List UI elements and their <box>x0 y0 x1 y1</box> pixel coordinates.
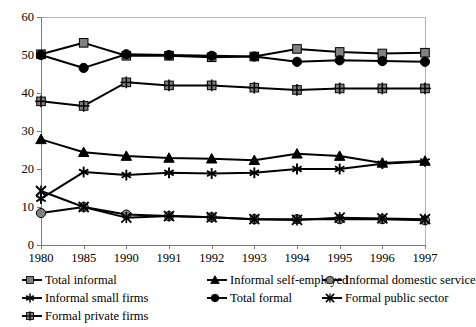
x-tick-mark <box>169 245 170 249</box>
x-tick-label: 1985 <box>61 252 107 265</box>
legend-item: Formal private firms <box>22 308 148 324</box>
x-tick-label: 1991 <box>146 252 192 265</box>
legend-marker-circle-filled-icon <box>207 291 227 305</box>
series-informal-domestic-service <box>36 202 429 225</box>
legend-marker-x-cross-icon <box>322 291 342 305</box>
legend-item-label: Total formal <box>227 292 292 305</box>
x-axis-line <box>41 245 425 246</box>
y-tick-label: 30 <box>0 125 34 138</box>
x-tick-mark <box>340 245 341 249</box>
y-tick-label: 20 <box>0 163 34 176</box>
y-tick-label: 0 <box>0 239 34 252</box>
plot-area <box>41 17 425 245</box>
legend-marker-circle-icon <box>322 273 342 287</box>
legend-item: Formal public sector <box>322 290 448 306</box>
legend-item-label: Total informal <box>42 274 117 287</box>
x-tick-label: 1994 <box>274 252 320 265</box>
x-tick-mark <box>212 245 213 249</box>
legend-marker-square-cross-icon <box>22 309 42 323</box>
legend-item: Informal domestic service <box>322 272 476 288</box>
series-total-informal <box>37 39 430 62</box>
legend-item: Total formal <box>207 290 292 306</box>
x-tick-mark <box>425 245 426 249</box>
x-tick-mark <box>297 245 298 249</box>
y-tick-label: 40 <box>0 87 34 100</box>
x-tick-mark <box>126 245 127 249</box>
legend-marker-triangle-icon <box>207 273 227 287</box>
legend-item-label: Formal private firms <box>42 310 148 323</box>
legend-marker-square-icon <box>22 273 42 287</box>
legend-item: Total informal <box>22 272 117 288</box>
series-informal-self-employed <box>36 134 430 167</box>
x-tick-label: 1996 <box>359 252 405 265</box>
legend-item-label: Formal public sector <box>342 292 448 305</box>
x-tick-label: 1993 <box>231 252 277 265</box>
series-formal-private-firms <box>35 76 431 111</box>
x-tick-label: 1992 <box>189 252 235 265</box>
x-tick-mark <box>41 245 42 249</box>
x-tick-label: 1990 <box>103 252 149 265</box>
x-tick-mark <box>84 245 85 249</box>
x-tick-label: 1980 <box>18 252 64 265</box>
y-tick-label: 50 <box>0 49 34 62</box>
legend-marker-asterisk-icon <box>22 291 42 305</box>
x-tick-mark <box>254 245 255 249</box>
legend-item: Informal small firms <box>22 290 148 306</box>
series-informal-small-firms <box>36 156 429 204</box>
legend-item-label: Informal small firms <box>42 292 148 305</box>
x-tick-label: 1995 <box>317 252 363 265</box>
x-tick-mark <box>382 245 383 249</box>
chart-legend: Total informalInformal self-employedInfo… <box>22 272 434 324</box>
legend-item-label: Informal domestic service <box>342 274 476 287</box>
x-tick-label: 1997 <box>402 252 448 265</box>
y-tick-label: 60 <box>0 11 34 24</box>
series-lines-layer <box>41 17 425 245</box>
y-tick-label: 10 <box>0 201 34 214</box>
